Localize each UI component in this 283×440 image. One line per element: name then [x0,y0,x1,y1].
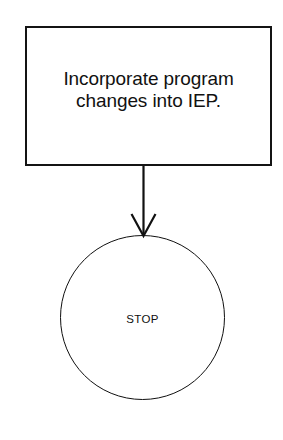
arrowhead-down-icon [132,214,156,236]
process-node-label: Incorporate program changes into IEP. [53,68,243,113]
flowchart-canvas: Incorporate program changes into IEP. ST… [0,0,283,440]
terminator-node-stop[interactable]: STOP [60,235,225,400]
terminator-node-label: STOP [126,313,159,325]
process-node-incorporate-program-changes[interactable]: Incorporate program changes into IEP. [25,26,272,166]
